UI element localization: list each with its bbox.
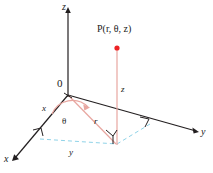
cylindrical-coordinates-figure: z 0 x y x θ r z y P(r, θ, z) [0, 0, 213, 173]
r-segment [69, 96, 116, 144]
x-segment-label: x [42, 104, 46, 113]
x-axis-label: x [4, 154, 8, 164]
origin-label: 0 [57, 78, 63, 89]
point-P-label: P(r, θ, z) [97, 24, 131, 34]
z-axis-label: z [62, 2, 66, 12]
projection-line-x-to-foot [40, 139, 117, 144]
z-segment-label: z [121, 85, 125, 94]
projection-lines-group [40, 124, 150, 144]
theta-angle-label: θ [62, 117, 66, 126]
y-axis-line [68, 95, 196, 131]
y-segment-label: y [69, 148, 73, 157]
y-axis-arrowhead [192, 128, 199, 134]
point-P-marker [114, 45, 119, 50]
z-axis-arrowhead [65, 7, 71, 13]
r-segment-label: r [94, 117, 98, 126]
y-axis-label: y [201, 127, 205, 137]
